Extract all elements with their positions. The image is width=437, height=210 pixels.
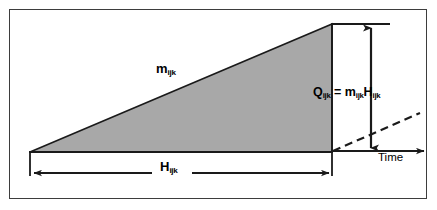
quantity-q-base: Q	[313, 85, 323, 99]
demand-triangle	[30, 24, 332, 152]
slope-label-base: m	[156, 61, 168, 76]
figure-root: mijk Qijk = mijkHijk Hijk Time	[0, 0, 437, 210]
diagram-canvas	[0, 0, 437, 210]
time-axis-label: Time	[378, 152, 403, 164]
quantity-h-subscript: ijk	[373, 91, 381, 100]
slope-label-subscript: ijk	[168, 68, 176, 77]
quantity-m-subscript: ijk	[356, 91, 364, 100]
quantity-equation-label: Qijk = mijkHijk	[313, 86, 380, 99]
horizon-label-subscript: ijk	[169, 166, 177, 175]
horizon-label-base: H	[160, 159, 169, 174]
quantity-h-base: H	[364, 85, 373, 99]
slope-extension-dashed-line	[333, 113, 420, 151]
quantity-m-base: m	[345, 85, 356, 99]
horizon-label: Hijk	[160, 160, 177, 173]
slope-label: mijk	[156, 62, 176, 75]
quantity-q-subscript: ijk	[323, 91, 331, 100]
quantity-equals: =	[330, 85, 344, 99]
